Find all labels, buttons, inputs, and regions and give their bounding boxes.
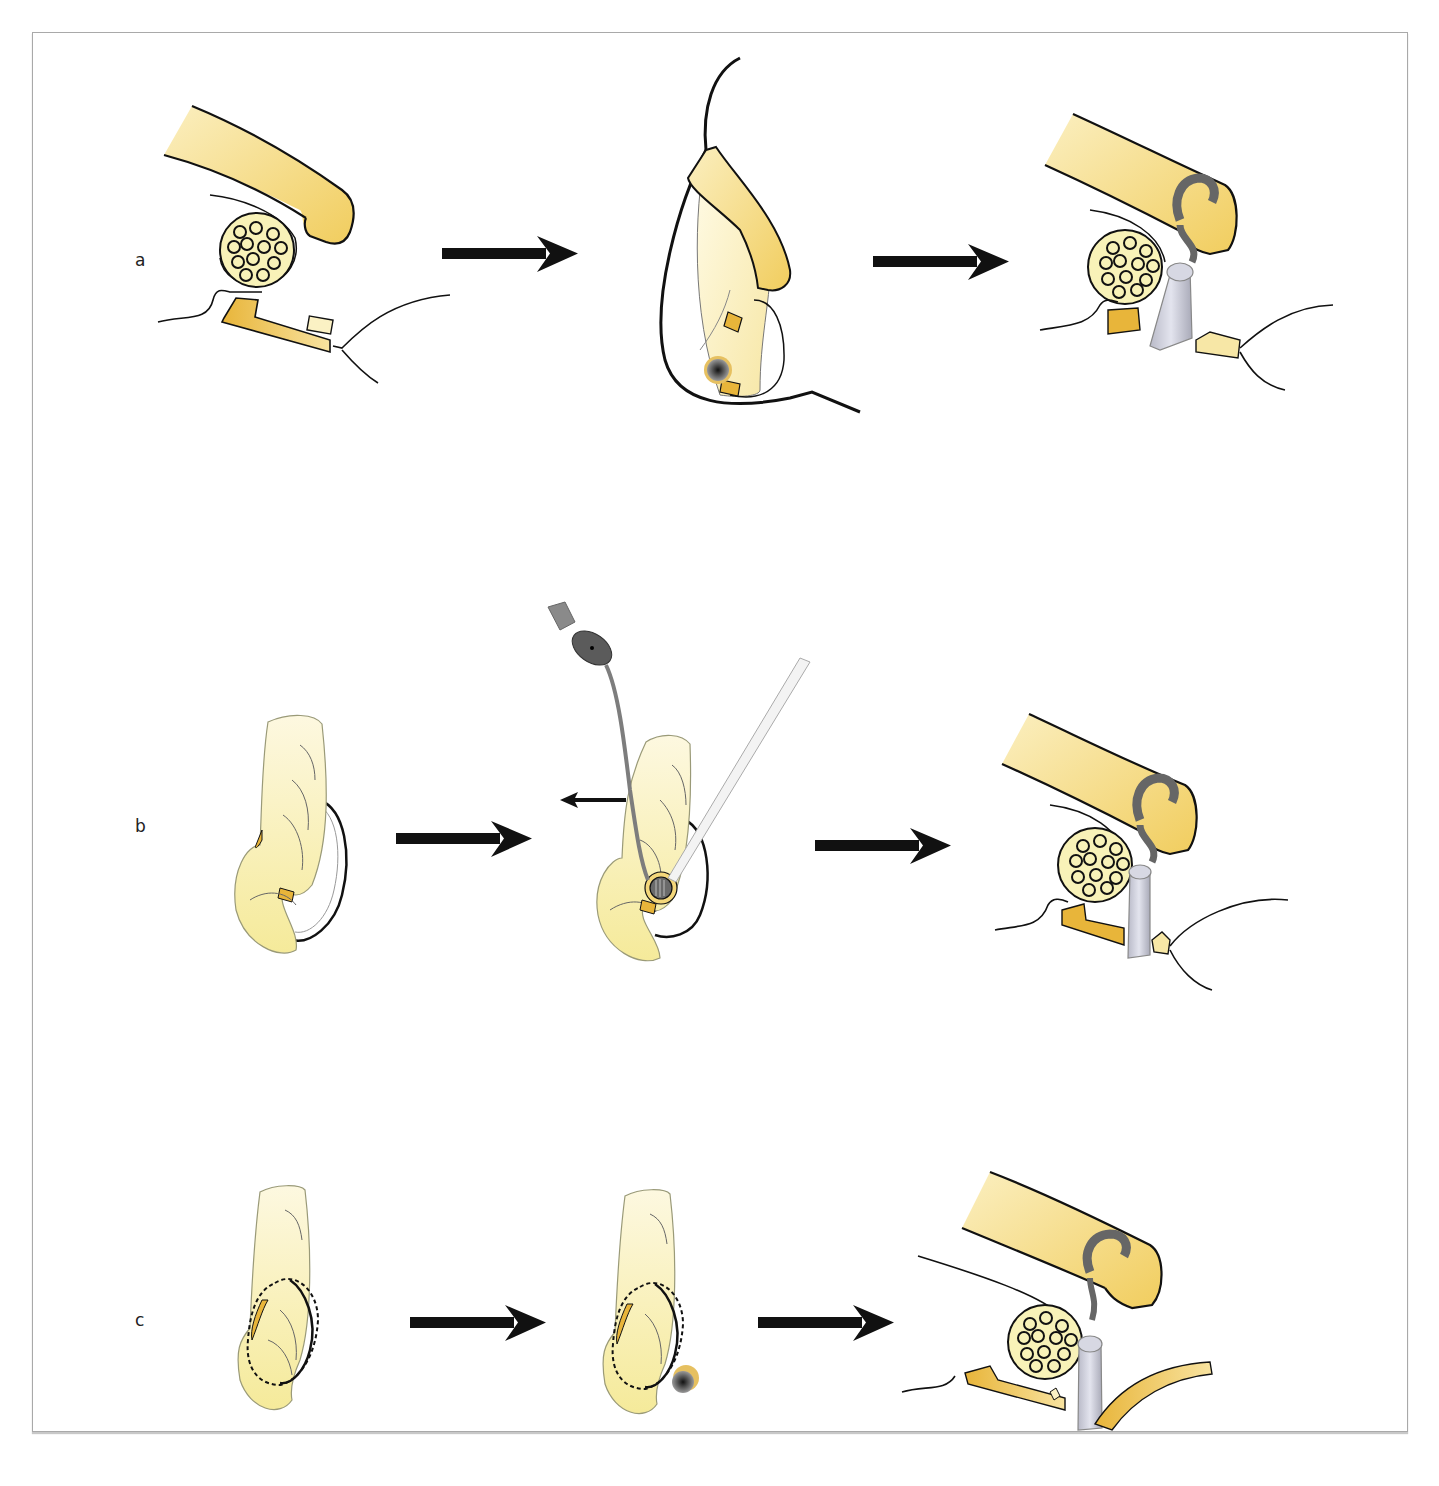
row-label-c: c [135,1310,144,1330]
row-b-step-2-illustration [540,600,820,970]
arrow-left-icon [560,792,626,808]
row-c-step-3-illustration [895,1165,1225,1450]
row-label-a: a [135,250,145,270]
arrow-right-icon [815,826,951,866]
arrow-right-icon [873,242,1009,282]
arrow-right-icon [396,819,532,859]
row-a-step-2-illustration [650,55,870,415]
row-a-step-1-illustration [150,100,460,400]
row-b-step-1-illustration [225,715,365,955]
row-a-step-3-illustration [1030,108,1340,398]
arrow-right-icon [442,234,578,274]
row-label-b: b [135,816,146,836]
row-b-step-3-illustration [990,710,1300,1000]
arrow-right-icon [758,1303,894,1343]
arrow-right-icon [410,1303,546,1343]
row-c-step-1-illustration [230,1180,370,1420]
row-c-step-2-illustration [585,1185,715,1425]
